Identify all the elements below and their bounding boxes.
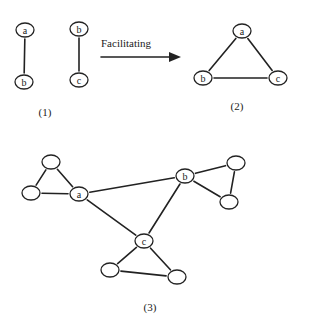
node-label: b [183,171,188,182]
graph-node-c: c [70,73,88,87]
graph-node [101,263,119,277]
arrow-label: Facilitating [101,37,152,49]
panel-caption: (1) [39,106,52,119]
graph-node-a: a [70,187,88,201]
node-label: b [77,24,82,35]
graph-edge [118,247,137,263]
graph-node [220,195,238,209]
graph-edge [149,184,180,233]
graph-edge [36,170,46,185]
node-circle-icon [220,195,238,209]
node-label: a [77,189,82,200]
graph-edge [209,38,236,70]
graph-node [42,155,60,169]
graph-edge [121,271,166,276]
graph-node-c: c [269,71,287,85]
graph-edge [231,172,235,193]
graph-node-b: b [15,75,33,89]
node-label: a [23,25,28,36]
node-circle-icon [227,156,245,170]
graph-node-b: b [176,169,194,183]
node-label: b [22,77,27,88]
graph-edge [87,200,136,235]
graph-node [168,270,186,284]
node-label: a [240,26,245,37]
captions-layer: (1)(2)(3) [39,100,244,314]
network-diagram: abbcabcabc Facilitating (1)(2)(3) [0,0,309,325]
graph-edge [194,181,220,196]
node-label: b [201,73,206,84]
graph-node-a: a [233,24,251,38]
facilitating-arrow: Facilitating [101,37,170,57]
graph-node [22,186,40,200]
graph-node-b: b [70,22,88,36]
graph-edge [57,169,72,186]
graph-node-b: b [194,71,212,85]
nodes-layer: abbcabcabc [15,22,287,284]
node-circle-icon [22,186,40,200]
panel-caption: (2) [231,100,244,113]
node-circle-icon [101,263,119,277]
node-circle-icon [42,155,60,169]
graph-node-a: a [16,23,34,37]
graph-edge [90,178,174,192]
node-label: c [142,236,147,247]
node-circle-icon [168,270,186,284]
node-label: c [77,75,82,86]
graph-edge [151,248,171,270]
graph-edge [248,39,272,71]
graph-edge [195,166,225,174]
panel-caption: (3) [144,301,157,314]
graph-node-c: c [135,234,153,248]
graph-edge [42,193,68,194]
graph-node [227,156,245,170]
node-label: c [276,73,281,84]
graph-edge [24,39,25,73]
